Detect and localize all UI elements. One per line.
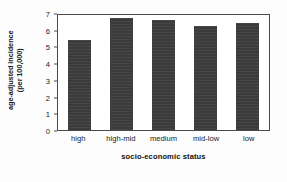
x-axis-tick-label: high-mid xyxy=(100,134,142,143)
bar-chart-figure: age-adjusted incidence (per 100,000) hig… xyxy=(0,0,287,182)
y-axis-tick-label: 2 xyxy=(0,93,57,102)
y-axis-tick-mark xyxy=(54,64,58,65)
bar xyxy=(236,23,259,130)
y-axis-tick-label: 5 xyxy=(0,43,57,52)
y-axis-tick-label: 0 xyxy=(0,127,57,136)
bar xyxy=(194,26,217,130)
x-axis-tick-label: mid-low xyxy=(185,134,227,143)
y-axis-tick-mark xyxy=(54,97,58,98)
y-axis-tick-mark xyxy=(54,131,58,132)
bar xyxy=(110,18,133,130)
bar-series xyxy=(58,15,269,130)
y-axis-tick-label: 1 xyxy=(0,110,57,119)
y-axis-tick-label: 6 xyxy=(0,26,57,35)
y-axis-label: age-adjusted incidence (per 100,000) xyxy=(0,0,30,140)
y-axis-tick-label: 4 xyxy=(0,60,57,69)
plot-area xyxy=(57,14,270,131)
y-axis-tick-label: 7 xyxy=(0,10,57,19)
y-axis-tick-mark xyxy=(54,47,58,48)
x-axis-tick-label: medium xyxy=(142,134,184,143)
x-axis-label: socio-economic status xyxy=(57,152,270,161)
bar xyxy=(68,40,91,130)
y-axis-tick-mark xyxy=(54,114,58,115)
x-axis-tick-labels: highhigh-midmediummid-lowlow xyxy=(57,134,270,148)
y-axis-tick-mark xyxy=(54,80,58,81)
x-axis-tick-label: low xyxy=(228,134,270,143)
x-axis-tick-label: high xyxy=(57,134,99,143)
y-axis-tick-mark xyxy=(54,30,58,31)
y-axis-tick-mark xyxy=(54,14,58,15)
bar xyxy=(152,20,175,130)
y-axis-tick-label: 3 xyxy=(0,76,57,85)
